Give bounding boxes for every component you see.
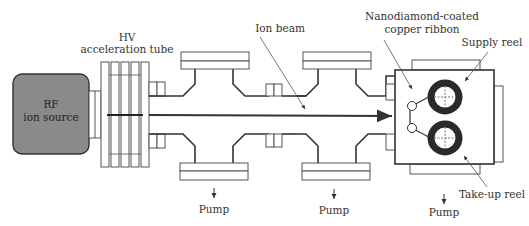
ion-source-label-1: RF <box>43 98 58 110</box>
guide-roller-top <box>408 102 417 111</box>
pump-3-label: Pump <box>429 206 460 218</box>
pump-1-label: Pump <box>199 203 230 215</box>
supply-reel <box>431 83 459 111</box>
rf-ion-source: RF ion source <box>13 74 89 154</box>
ribbon-label-2: copper ribbon <box>384 23 459 35</box>
ion-beam-leader <box>260 37 305 109</box>
pump-1: Pump <box>199 188 230 215</box>
hv-label-1: HV <box>119 31 136 43</box>
ribbon-label-1: Nanodiamond-coated <box>365 10 479 22</box>
beamline-upper-wall <box>149 52 396 100</box>
ion-beam-label: Ion beam <box>255 22 305 34</box>
hv-acceleration-tube <box>101 62 149 167</box>
source-connector <box>89 91 101 138</box>
supply-reel-label: Supply reel <box>462 36 523 48</box>
pump-2: Pump <box>319 189 350 216</box>
ion-beam-system-diagram: RF ion source HV acceleration tube <box>0 0 529 226</box>
pump-3: Pump <box>429 194 460 218</box>
pump-2-label: Pump <box>319 204 350 216</box>
target-chamber <box>395 60 503 174</box>
hv-label-2: acceleration tube <box>80 43 173 55</box>
ion-source-label-2: ion source <box>23 111 78 123</box>
guide-roller-bottom <box>408 124 417 133</box>
ion-beam-line <box>149 115 392 116</box>
takeup-reel-label: Take-up reel <box>459 188 526 200</box>
beamline-lower-wall <box>149 134 396 180</box>
takeup-reel <box>431 124 459 152</box>
